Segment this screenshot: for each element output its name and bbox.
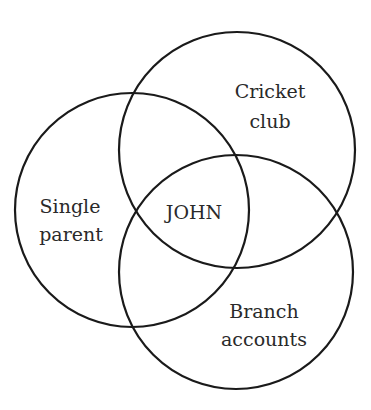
venn-diagram: Cricket club Single parent Branch accoun…	[0, 0, 371, 410]
circle-cricket-club	[119, 32, 355, 268]
circle-branch-accounts	[119, 155, 353, 389]
label-cricket-line2: club	[249, 110, 290, 132]
label-intersection: JOHN	[164, 201, 222, 223]
label-branch-line1: Branch	[229, 300, 299, 322]
label-cricket-line1: Cricket	[235, 80, 306, 102]
label-single-line2: parent	[39, 223, 103, 245]
label-single-line1: Single	[40, 195, 101, 217]
label-branch-line2: accounts	[221, 328, 307, 350]
